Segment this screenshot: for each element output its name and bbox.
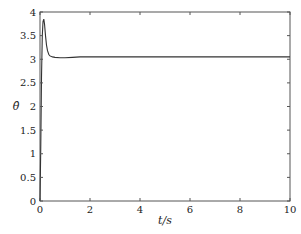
x-tick-label: 10 <box>284 204 297 215</box>
y-tick-label: 1 <box>30 148 36 159</box>
y-tick-label: 4 <box>30 7 36 18</box>
y-tick-label: 2.5 <box>20 77 36 88</box>
series-line <box>40 19 290 201</box>
line-chart: 00.511.522.533.54 0246810 t/s θ̂ <box>0 0 301 234</box>
y-axis-label: θ̂ <box>13 100 20 113</box>
plot-frame <box>40 12 290 201</box>
y-tick-label: 0.5 <box>20 172 36 183</box>
x-tick-label: 2 <box>87 204 93 215</box>
x-tick-label: 4 <box>137 204 143 215</box>
y-tick-label: 0 <box>30 196 36 207</box>
x-tick-label: 8 <box>237 204 243 215</box>
x-axis-label: t/s <box>158 214 172 227</box>
x-axis-ticks: 0246810 <box>37 12 297 215</box>
y-axis-ticks: 00.511.522.533.54 <box>20 7 290 207</box>
y-tick-label: 1.5 <box>20 125 36 136</box>
plot-area <box>40 12 290 201</box>
x-tick-label: 6 <box>187 204 193 215</box>
y-tick-label: 2 <box>30 101 36 112</box>
y-tick-label: 3 <box>30 54 36 65</box>
y-tick-label: 3.5 <box>20 30 36 41</box>
x-tick-label: 0 <box>37 204 43 215</box>
